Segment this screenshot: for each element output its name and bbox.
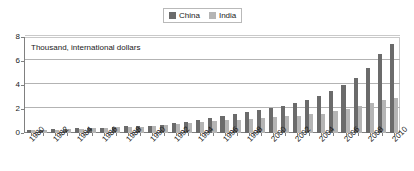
x-tick-mark-2009 [382,133,383,136]
x-tick-mark-1989 [140,133,141,136]
legend-entry-china[interactable]: China [169,12,200,20]
y-tick-mark-6 [21,61,24,62]
x-tick-mark-1991 [164,133,165,136]
chart-legend: China India [163,8,242,23]
x-tick-mark-1981 [43,133,44,136]
x-tick-mark-1993 [188,133,189,136]
legend-label-india: India [219,12,236,20]
bar-group-2004 [317,96,325,133]
y-tick-label-2: 2 [8,105,20,113]
bar-group-2008 [366,68,374,133]
y-tick-label-8: 8 [8,33,20,41]
bar-group-2010 [390,44,398,133]
legend-entry-india[interactable]: India [209,12,236,20]
x-tick-mark-1985 [92,133,93,136]
x-tick-mark-1999 [261,133,262,136]
y-tick-label-6: 6 [8,57,20,65]
legend-swatch-square-india [209,12,216,19]
bar-chart: China India 02468 Thousand, internationa… [0,0,414,171]
x-tick-mark-1983 [67,133,68,136]
x-tick-mark-1987 [116,133,117,136]
x-tick-mark-2007 [358,133,359,136]
legend-swatch-square-china [169,12,176,19]
x-tick-mark-2003 [309,133,310,136]
x-tick-mark-1995 [213,133,214,136]
y-tick-mark-0 [21,133,24,134]
bar-group-2009 [378,54,386,133]
x-tick-mark-2001 [285,133,286,136]
bars-layer [25,37,400,133]
gridline-8 [25,35,400,36]
x-tick-mark-1997 [237,133,238,136]
bar-group-2002 [293,103,301,133]
y-tick-mark-2 [21,109,24,110]
y-tick-mark-8 [21,37,24,38]
y-tick-mark-4 [21,85,24,86]
legend-label-china: China [179,12,200,20]
y-tick-label-0: 0 [8,129,20,137]
x-tick-mark-2005 [333,133,334,136]
bar-india-2010[interactable] [394,98,398,133]
y-tick-label-4: 4 [8,81,20,89]
bar-group-2006 [341,85,349,133]
